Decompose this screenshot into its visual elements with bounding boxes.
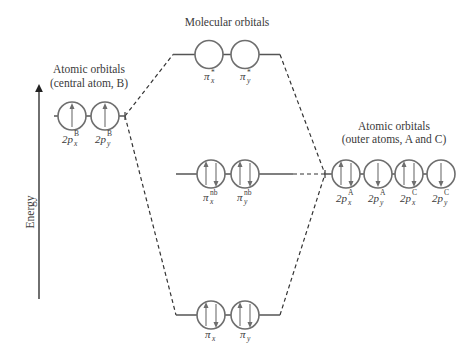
orbital-label-sub: x [73, 139, 78, 148]
svg-text:π: π [204, 70, 210, 82]
title-molecular-orbitals: Molecular orbitals [185, 16, 270, 28]
svg-text:2p: 2p [95, 133, 107, 145]
orbital-label-sup: nb [210, 188, 218, 197]
orbital-label-sup: C [412, 188, 417, 197]
orbital-label-sub: x [210, 76, 215, 85]
orbital-pi-y: π y [231, 301, 259, 343]
orbital-label-sub: x [347, 198, 352, 207]
orbital-label-sup: A [348, 188, 354, 197]
svg-text:2p: 2p [368, 192, 380, 204]
orbital-label-sup: * [247, 68, 251, 77]
correlation-line-bonding-to-AC [280, 174, 325, 315]
correlation-line-B-to-bonding [125, 116, 176, 315]
orbital-pi-star-x: π x * [195, 41, 223, 86]
orbital-label-sub: x [211, 334, 216, 343]
orbital-2py-B: 2p y B [91, 102, 119, 148]
orbital-label-sub: y [106, 139, 111, 148]
orbital-label-sup: B [74, 129, 79, 138]
orbital-pi-star-y: π y * [231, 41, 259, 86]
orbital-2px-A: 2p x A [332, 160, 360, 207]
orbital-label-sub: y [379, 198, 384, 207]
orbital-label-sup: B [107, 129, 112, 138]
svg-text:π: π [203, 191, 209, 203]
orbital-label-sup: C [444, 188, 449, 197]
energy-axis-label: Energy [24, 195, 37, 228]
orbital-label-sup: * [211, 68, 215, 77]
svg-text:π: π [240, 70, 246, 82]
orbital-pi-nb-x: π x nb [197, 160, 225, 206]
orbital-label-sub: y [243, 197, 248, 206]
svg-text:2p: 2p [432, 192, 444, 204]
title-left-line2: (central atom, B) [50, 77, 128, 90]
orbital-label-sub: y [246, 334, 251, 343]
orbital-2px-B: 2p x B [58, 102, 86, 148]
orbital-pi-x: π x [197, 301, 225, 343]
title-left-line1: Atomic orbitals [53, 63, 125, 75]
svg-text:2p: 2p [62, 133, 74, 145]
correlation-line-antibonding-to-AC [280, 55, 325, 175]
mo-diagram: Molecular orbitals Atomic orbitals (cent… [0, 0, 475, 355]
svg-text:2p: 2p [336, 192, 348, 204]
svg-text:π: π [240, 328, 246, 340]
orbital-label-sup: nb [244, 188, 252, 197]
orbital-2py-C: 2p y C [427, 160, 455, 207]
title-right-line1: Atomic orbitals [358, 120, 430, 132]
svg-text:π: π [237, 191, 243, 203]
orbital-2py-A: 2p y A [364, 160, 392, 207]
svg-text:π: π [205, 328, 211, 340]
svg-text:2p: 2p [400, 192, 412, 204]
orbital-label-sub: x [411, 198, 416, 207]
orbital-pi-nb-y: π y nb [231, 160, 259, 206]
orbital-label-sub: y [443, 198, 448, 207]
orbital-2px-C: 2p x C [395, 160, 423, 207]
orbital-label-sub: y [246, 76, 251, 85]
orbital-label-sub: x [209, 197, 214, 206]
title-right-line2: (outer atoms, A and C) [342, 133, 447, 146]
correlation-line-B-to-antibonding [125, 55, 173, 117]
orbital-label-sup: A [380, 188, 386, 197]
